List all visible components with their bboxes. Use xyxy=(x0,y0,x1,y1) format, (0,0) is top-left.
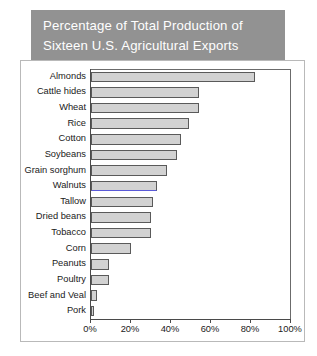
bar-row[interactable]: Grain sorghum xyxy=(90,163,291,179)
category-label: Peanuts xyxy=(52,260,86,269)
x-tick-mark xyxy=(90,319,91,323)
bar[interactable] xyxy=(91,306,94,317)
bar[interactable] xyxy=(91,72,255,83)
bar-row[interactable]: Almonds xyxy=(90,69,291,85)
category-label: Soybeans xyxy=(45,150,86,159)
category-label: Pork xyxy=(67,307,86,316)
bar-row[interactable]: Tallow xyxy=(90,194,291,210)
chart-panel: AlmondsCattle hidesWheatRiceCottonSoybea… xyxy=(20,60,305,342)
bar-row[interactable]: Wheat xyxy=(90,100,291,116)
category-label: Corn xyxy=(66,244,86,253)
category-label: Grain sorghum xyxy=(25,166,87,175)
chart-figure: Percentage of Total Production of Sixtee… xyxy=(0,0,317,356)
bar[interactable] xyxy=(91,87,199,98)
bar-row[interactable]: Pork xyxy=(90,303,291,319)
category-label: Rice xyxy=(67,119,86,128)
bar-row[interactable]: Corn xyxy=(90,241,291,257)
category-label: Almonds xyxy=(50,72,86,81)
category-label: Tallow xyxy=(60,197,86,206)
category-label: Wheat xyxy=(59,103,86,112)
bar[interactable] xyxy=(91,118,189,129)
bar[interactable] xyxy=(91,259,109,270)
bar-row[interactable]: Rice xyxy=(90,116,291,132)
bar-row[interactable]: Poultry xyxy=(90,272,291,288)
category-label: Cattle hides xyxy=(37,88,86,97)
chart-title-banner: Percentage of Total Production of Sixtee… xyxy=(31,10,285,60)
bar-row[interactable]: Tobacco xyxy=(90,225,291,241)
x-tick-label: 80% xyxy=(241,325,260,334)
bar[interactable] xyxy=(91,165,167,176)
bar[interactable] xyxy=(91,212,151,223)
bar[interactable] xyxy=(91,103,199,114)
bar-row[interactable]: Beef and Veal xyxy=(90,288,291,304)
bar-row[interactable]: Walnuts xyxy=(90,178,291,194)
x-tick-mark xyxy=(210,319,211,323)
bar-row[interactable]: Dried beans xyxy=(90,210,291,226)
x-tick-label: 100% xyxy=(278,325,302,334)
bar[interactable] xyxy=(91,275,109,286)
x-tick-mark xyxy=(130,319,131,323)
bar-row[interactable]: Cattle hides xyxy=(90,85,291,101)
bar[interactable] xyxy=(91,134,181,145)
category-label: Beef and Veal xyxy=(28,291,86,300)
bar-row[interactable]: Cotton xyxy=(90,132,291,148)
bar[interactable] xyxy=(91,228,151,239)
bar[interactable] xyxy=(91,181,157,192)
category-label: Cotton xyxy=(59,135,86,144)
bar-row[interactable]: Soybeans xyxy=(90,147,291,163)
bar[interactable] xyxy=(91,243,131,254)
category-label: Dried beans xyxy=(36,213,86,222)
page-title-line-2: Sixteen U.S. Agricultural Exports xyxy=(43,36,285,56)
category-label: Walnuts xyxy=(53,182,86,191)
bar[interactable] xyxy=(91,197,153,208)
page-title-line-1: Percentage of Total Production of xyxy=(43,16,285,36)
x-tick-label: 60% xyxy=(201,325,220,334)
x-tick-label: 0% xyxy=(83,325,96,334)
category-label: Tobacco xyxy=(51,228,86,237)
bar[interactable] xyxy=(91,290,97,301)
bar[interactable] xyxy=(91,150,177,161)
x-axis-line xyxy=(90,319,291,320)
x-tick-mark xyxy=(170,319,171,323)
x-tick-mark xyxy=(290,319,291,323)
x-tick-label: 20% xyxy=(121,325,140,334)
x-tick-label: 40% xyxy=(161,325,180,334)
x-tick-mark xyxy=(250,319,251,323)
bar-row[interactable]: Peanuts xyxy=(90,257,291,273)
plot-area: AlmondsCattle hidesWheatRiceCottonSoybea… xyxy=(90,69,291,319)
category-label: Poultry xyxy=(57,275,86,284)
